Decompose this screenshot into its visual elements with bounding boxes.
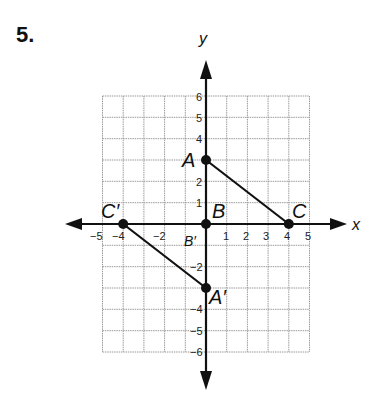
svg-text:4: 4: [284, 230, 290, 242]
point-A: [201, 155, 211, 165]
x-tick-labels: −5 −4 −2 1 2 3 4 5: [90, 230, 311, 242]
svg-text:−2: −2: [190, 261, 203, 273]
x-axis-left-arrow-icon: [65, 218, 82, 230]
svg-text:2: 2: [243, 230, 249, 242]
label-A-prime: A′: [208, 286, 227, 308]
svg-text:−4: −4: [190, 303, 203, 315]
svg-text:−4: −4: [112, 230, 125, 242]
point-C-prime: [118, 219, 128, 229]
svg-text:1: 1: [223, 230, 229, 242]
svg-text:2: 2: [196, 176, 202, 188]
svg-text:4: 4: [196, 133, 202, 145]
svg-text:5: 5: [305, 230, 311, 242]
svg-text:6: 6: [196, 91, 202, 103]
y-axis-down-arrow-icon: [200, 371, 212, 390]
y-axis-up-arrow-icon: [200, 60, 212, 79]
label-A: A: [181, 149, 195, 171]
label-B-prime: B′: [184, 233, 197, 249]
svg-text:5: 5: [196, 112, 202, 124]
svg-text:3: 3: [263, 230, 269, 242]
x-axis-label: x: [351, 216, 361, 233]
svg-text:1: 1: [196, 197, 202, 209]
x-axis-right-arrow-icon: [330, 218, 347, 230]
svg-text:−6: −6: [190, 346, 203, 358]
svg-text:−5: −5: [190, 325, 203, 337]
coordinate-plane: x y −5 −4 −2 1 2 3 4 5 6 5 4 2 1 −2 −4 −…: [0, 0, 373, 395]
svg-text:−2: −2: [153, 230, 166, 242]
label-C-prime: C′: [101, 200, 120, 222]
point-B: [201, 219, 211, 229]
label-C: C: [292, 200, 307, 222]
svg-text:−5: −5: [90, 230, 103, 242]
y-axis-label: y: [198, 30, 208, 47]
label-B: B: [212, 200, 225, 222]
